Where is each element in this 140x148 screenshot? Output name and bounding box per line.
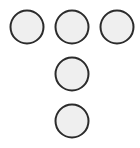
circle-top-right (101, 11, 134, 44)
circle-top-left (11, 11, 44, 44)
circle-bottom (56, 105, 89, 138)
circle-middle (56, 58, 89, 91)
diagram-canvas (0, 0, 140, 148)
t-shape-circle-diagram (0, 0, 140, 148)
circle-top-middle (56, 11, 89, 44)
